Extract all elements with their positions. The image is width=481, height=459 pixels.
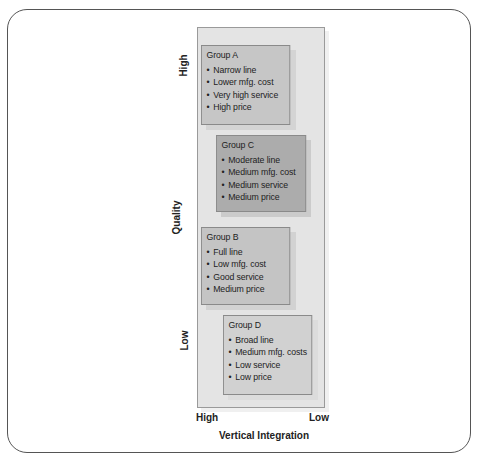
list-item: Medium mfg. cost [222, 166, 306, 178]
list-item: Very high service [207, 89, 290, 101]
group-title: Group C [222, 139, 306, 151]
y-axis-title: Quality [171, 201, 182, 235]
group-d-box: Group D Broad line Medium mfg. costs Low… [223, 315, 312, 395]
group-a-box: Group A Narrow line Lower mfg. cost Very… [201, 45, 290, 125]
list-item: Medium mfg. costs [229, 346, 312, 358]
list-item: Medium price [207, 283, 290, 295]
group-title: Group D [229, 319, 312, 331]
x-axis-low-label: Low [309, 412, 329, 423]
list-item: Broad line [229, 334, 312, 346]
y-axis-high-label: High [178, 54, 189, 76]
list-item: High price [207, 101, 290, 113]
list-item: Full line [207, 246, 290, 258]
list-item: Narrow line [207, 64, 290, 76]
group-c-box: Group C Moderate line Medium mfg. cost M… [216, 135, 306, 212]
list-item: Lower mfg. cost [207, 76, 290, 88]
list-item: Good service [207, 271, 290, 283]
x-axis-high-label: High [196, 412, 218, 423]
group-b-box: Group B Full line Low mfg. cost Good ser… [201, 227, 290, 305]
list-item: Medium service [222, 179, 306, 191]
list-item: Moderate line [222, 154, 306, 166]
list-item: Low mfg. cost [207, 258, 290, 270]
list-item: Low price [229, 371, 312, 383]
x-axis-title: Vertical Integration [219, 430, 309, 441]
group-title: Group A [207, 49, 290, 61]
group-title: Group B [207, 231, 290, 243]
y-axis-low-label: Low [179, 331, 190, 351]
list-item: Low service [229, 359, 312, 371]
list-item: Medium price [222, 191, 306, 203]
